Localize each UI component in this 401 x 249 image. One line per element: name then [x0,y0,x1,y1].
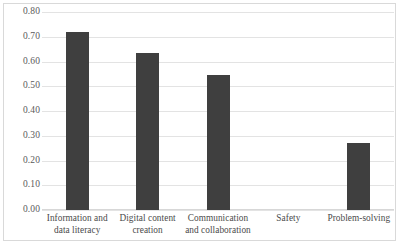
gridline [42,210,394,211]
y-axis-tick-label: 0.60 [6,57,40,67]
bar[interactable] [136,53,159,210]
chart-frame: 0.800.700.600.500.400.300.200.100.00 Inf… [3,3,396,241]
y-axis-tick-label: 0.40 [6,106,40,116]
x-axis-tick-label-line: Communication [179,213,257,225]
plot-area [42,12,394,210]
x-axis-tick-label: Safety [249,213,327,225]
x-axis: Information anddata literacyDigital cont… [42,213,394,243]
y-axis-tick-label: 0.20 [6,156,40,166]
x-axis-tick-label-line: data literacy [38,225,116,237]
gridline [42,12,394,13]
y-axis-tick-label: 0.70 [6,32,40,42]
x-axis-tick-label-line: Safety [249,213,327,225]
y-axis-tick-label: 0.80 [6,7,40,17]
y-axis-tick-label: 0.50 [6,81,40,91]
bar[interactable] [207,75,230,210]
gridline [42,62,394,63]
x-axis-tick-label: Digital contentcreation [108,213,186,236]
x-axis-tick-label-line: Digital content [108,213,186,225]
y-axis: 0.800.700.600.500.400.300.200.100.00 [4,12,40,210]
bar[interactable] [347,143,370,210]
bar[interactable] [66,32,89,210]
y-axis-tick-label: 0.00 [6,205,40,215]
x-axis-tick-label: Problem-solving [320,213,398,225]
x-axis-tick-label: Information anddata literacy [38,213,116,236]
gridline [42,37,394,38]
y-axis-tick-label: 0.30 [6,131,40,141]
x-axis-tick-label: Communicationand collaboration [179,213,257,236]
x-axis-tick-label-line: creation [108,225,186,237]
x-axis-tick-label-line: Information and [38,213,116,225]
x-axis-tick-label-line: Problem-solving [320,213,398,225]
y-axis-tick-label: 0.10 [6,180,40,190]
x-axis-tick-label-line: and collaboration [179,225,257,237]
